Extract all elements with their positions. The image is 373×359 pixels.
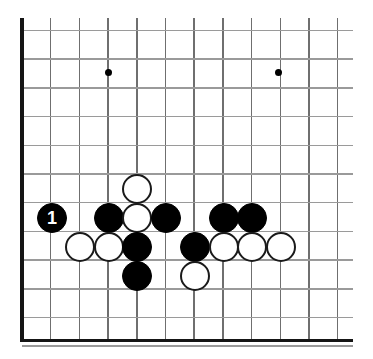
black-stone[interactable] — [209, 203, 239, 233]
board-surface[interactable]: 1 — [0, 0, 373, 359]
black-stone[interactable] — [237, 203, 267, 233]
grid-line-horizontal — [22, 345, 353, 347]
black-stone[interactable]: 1 — [37, 203, 67, 233]
black-stone[interactable] — [180, 232, 210, 262]
grid-line-vertical — [251, 18, 253, 339]
grid-line-horizontal — [22, 87, 353, 89]
move-number-label: 1 — [38, 204, 66, 232]
grid-line-vertical — [222, 18, 224, 339]
grid-line-vertical — [107, 18, 109, 339]
black-stone[interactable] — [122, 261, 152, 291]
white-stone[interactable] — [94, 232, 124, 262]
white-stone[interactable] — [122, 203, 152, 233]
black-stone[interactable] — [94, 203, 124, 233]
grid-line-horizontal — [22, 231, 353, 233]
board-edge-bottom — [20, 339, 353, 342]
grid-line-horizontal — [22, 173, 353, 175]
white-stone[interactable] — [65, 232, 95, 262]
grid-line-vertical — [280, 18, 282, 339]
grid-line-vertical — [79, 18, 81, 339]
black-stone[interactable] — [122, 232, 152, 262]
white-stone[interactable] — [180, 261, 210, 291]
grid-line-horizontal — [22, 202, 353, 204]
white-stone[interactable] — [266, 232, 296, 262]
grid-line-vertical — [165, 18, 167, 339]
grid-line-vertical — [50, 18, 52, 339]
go-board-diagram: 1 — [0, 0, 373, 359]
white-stone[interactable] — [209, 232, 239, 262]
grid-line-horizontal — [22, 317, 353, 319]
grid-line-horizontal — [22, 30, 353, 32]
black-stone[interactable] — [151, 203, 181, 233]
star-point-left-icon — [105, 69, 112, 76]
grid-line-horizontal — [22, 116, 353, 118]
grid-line-horizontal — [22, 58, 353, 60]
white-stone[interactable] — [237, 232, 267, 262]
white-stone[interactable] — [122, 174, 152, 204]
board-edge-left — [20, 18, 23, 341]
grid-line-horizontal — [22, 145, 353, 147]
grid-line-vertical — [308, 18, 310, 339]
grid-line-vertical — [337, 18, 339, 339]
star-point-right-icon — [275, 69, 282, 76]
